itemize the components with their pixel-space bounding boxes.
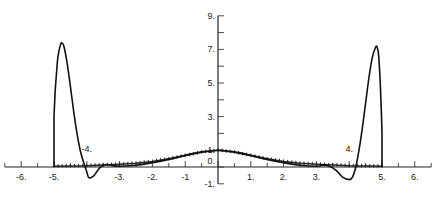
annotation-label: 4. <box>345 144 353 154</box>
x-tick-label: 2. <box>280 172 288 182</box>
x-tick-label: 5. <box>378 172 386 182</box>
annotations: -4.4. <box>82 144 353 154</box>
line-chart: -6.-5.-3.-2.-11.2.3.5.6.9.7.5.3.1.0.-1. … <box>0 0 444 198</box>
y-tick-label: 7. <box>207 44 215 54</box>
x-tick-label: 1. <box>247 172 255 182</box>
x-tick-label: -1 <box>181 172 189 182</box>
x-tick-label: -3. <box>114 172 125 182</box>
x-tick-label: -2. <box>147 172 158 182</box>
axes <box>5 16 431 184</box>
x-tick-label: 6. <box>411 172 419 182</box>
y-tick-label: 5. <box>207 78 215 88</box>
y-tick-label: -1. <box>204 179 215 189</box>
y-tick-label: 3. <box>207 112 215 122</box>
annotation-label: -4. <box>82 144 93 154</box>
x-tick-label: -6. <box>16 172 27 182</box>
x-tick-label: 3. <box>313 172 321 182</box>
tick-labels: -6.-5.-3.-2.-11.2.3.5.6.9.7.5.3.1.0.-1. <box>16 11 419 189</box>
y-tick-label: 0. <box>207 156 215 166</box>
y-tick-label: 9. <box>207 11 215 21</box>
chart-container: -6.-5.-3.-2.-11.2.3.5.6.9.7.5.3.1.0.-1. … <box>0 0 444 198</box>
x-tick-label: -5. <box>49 172 60 182</box>
